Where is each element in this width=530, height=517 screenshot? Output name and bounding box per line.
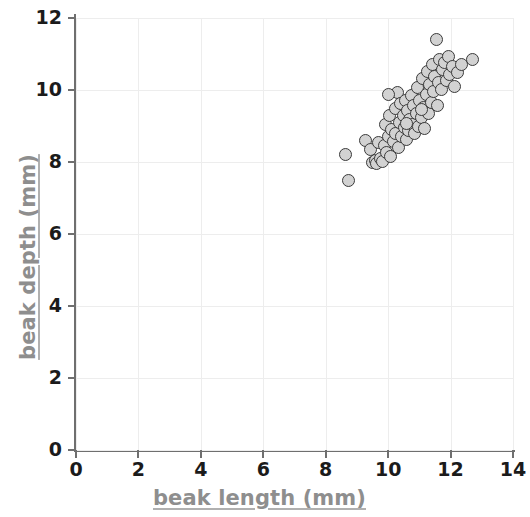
y-axis-tick-label: 12: [0, 6, 62, 28]
x-axis-tick: [137, 450, 139, 458]
x-axis-tick: [325, 450, 327, 458]
x-axis-tick-label: 14: [483, 458, 530, 480]
x-axis-tick: [387, 450, 389, 458]
x-axis-tick-label: 8: [296, 458, 356, 480]
x-axis-tick-label: 12: [421, 458, 481, 480]
x-axis-tick-label: 0: [46, 458, 106, 480]
y-axis-tick: [68, 89, 76, 91]
scatter-point: [418, 122, 431, 135]
x-axis-tick-label: 4: [171, 458, 231, 480]
y-axis-tick-label: 8: [0, 150, 62, 172]
y-axis-tick: [68, 17, 76, 19]
x-axis-tick-label: 6: [233, 458, 293, 480]
x-axis-tick: [512, 450, 514, 458]
x-axis-title: beak length (mm): [0, 486, 519, 510]
x-axis-tick-label: 10: [358, 458, 418, 480]
scatter-point: [431, 99, 444, 112]
scatter-point: [342, 174, 355, 187]
y-axis-tick: [68, 161, 76, 163]
gridline-horizontal: [76, 162, 513, 163]
scatter-point: [430, 33, 443, 46]
y-axis-tick: [68, 305, 76, 307]
y-axis-tick: [68, 233, 76, 235]
gridline-horizontal: [76, 378, 513, 379]
scatter-point: [466, 53, 479, 66]
gridline-horizontal: [76, 306, 513, 307]
y-axis-tick-label: 0: [0, 438, 62, 460]
gridline-horizontal: [76, 18, 513, 19]
x-axis-tick: [200, 450, 202, 458]
x-axis-tick-label: 2: [108, 458, 168, 480]
y-axis-tick-label: 4: [0, 294, 62, 316]
gridline-vertical: [513, 18, 514, 450]
x-axis-tick: [75, 450, 77, 458]
x-axis-tick: [450, 450, 452, 458]
y-axis-tick-label: 2: [0, 366, 62, 388]
y-axis-tick-label: 10: [0, 78, 62, 100]
x-axis-tick: [262, 450, 264, 458]
scatter-point: [382, 88, 395, 101]
y-axis-title: beak depth (mm): [16, 137, 40, 377]
plot-area: [76, 18, 513, 450]
scatter-point: [339, 148, 352, 161]
y-axis-tick: [68, 377, 76, 379]
gridline-horizontal: [76, 234, 513, 235]
y-axis-tick-label: 6: [0, 222, 62, 244]
gridline-horizontal: [76, 450, 513, 451]
